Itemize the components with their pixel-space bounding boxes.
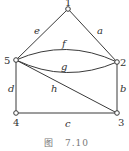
vertex-label-1: 1 xyxy=(65,0,71,8)
edge-label-e: e xyxy=(34,25,40,36)
figure-caption-number: 7.10 xyxy=(65,138,89,148)
vertex-5 xyxy=(14,58,19,63)
figure-caption-prefix: 图 xyxy=(44,138,54,148)
edge-label-f: f xyxy=(61,38,68,49)
edge-label-d: d xyxy=(8,83,14,94)
edge-label-a: a xyxy=(97,25,103,36)
vertex-4 xyxy=(14,111,19,116)
vertex-label-4: 4 xyxy=(13,117,19,128)
edge-label-g: g xyxy=(61,61,67,72)
vertex-label-5: 5 xyxy=(4,55,10,66)
edge-e xyxy=(16,9,68,60)
graph-diagram: 1 2 3 4 5 a b c d e f g h 图 7.10 xyxy=(0,0,129,151)
edge-a xyxy=(68,9,117,62)
vertex-2 xyxy=(115,60,120,65)
vertex-label-3: 3 xyxy=(118,117,124,128)
vertex-label-2: 2 xyxy=(120,57,126,68)
edge-label-c: c xyxy=(65,118,71,129)
edge-label-b: b xyxy=(120,83,126,94)
vertex-3 xyxy=(115,111,120,116)
edge-label-h: h xyxy=(51,83,57,94)
